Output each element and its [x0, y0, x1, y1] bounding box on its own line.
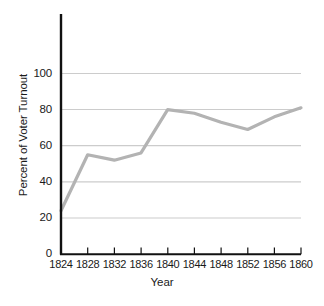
data-line-voter-turnout — [61, 108, 301, 211]
x-axis-title: Year — [0, 276, 324, 288]
x-axis-tick-labels: 1824 1828 1832 1836 1840 1844 1848 1852 … — [0, 258, 324, 274]
y-axis-title: Percent of Voter Turnout — [16, 35, 30, 235]
voter-turnout-line-chart: 100 80 60 40 20 0 Percent of Voter Turno… — [0, 0, 324, 306]
x-tick-label-1860: 1860 — [281, 258, 321, 271]
gridlines — [61, 74, 301, 219]
x-axis-ticks — [61, 248, 301, 255]
